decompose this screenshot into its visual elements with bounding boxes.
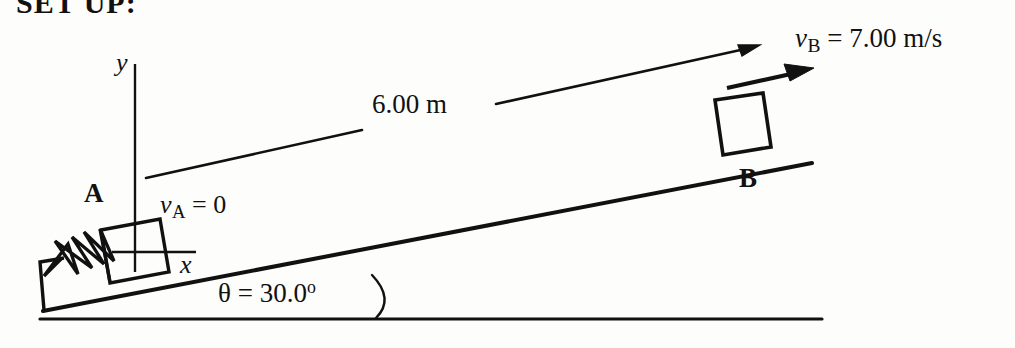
velocity-b-value: 7.00 m/s (849, 23, 942, 53)
angle-equals: = (231, 278, 260, 308)
angle-arc (372, 275, 385, 318)
velocity-a-subscript: A (172, 201, 186, 222)
angle-symbol: θ (218, 278, 231, 308)
velocity-b-label: vB = 7.00 m/s (795, 25, 942, 56)
x-axis-label: x (180, 252, 192, 278)
velocity-a-label: vA = 0 (160, 192, 226, 222)
page-title: SET UP: (16, 0, 137, 18)
distance-arrow-left-segment (146, 130, 362, 178)
velocity-arrow-b-head (784, 64, 814, 81)
block-a-label: A (84, 180, 104, 207)
velocity-b-equals: = (820, 23, 849, 53)
distance-label: 6.00 m (372, 91, 447, 118)
velocity-a-equals: = (186, 190, 214, 219)
incline-surface (43, 163, 812, 311)
angle-label: θ = 30.0o (218, 279, 316, 307)
distance-arrow-right-segment (496, 47, 754, 104)
block-b-label: B (739, 165, 757, 192)
distance-arrow-head (738, 45, 760, 56)
physics-diagram-figure: SET UP: vB = 7.00 m/s 6.00 m B A vA = 0 … (0, 0, 1015, 348)
velocity-a-symbol: v (160, 190, 172, 219)
velocity-b-symbol: v (795, 23, 807, 53)
angle-value: 30.0 (260, 278, 307, 308)
velocity-b-subscript: B (807, 35, 820, 56)
velocity-a-value: 0 (213, 190, 226, 219)
block-b (715, 93, 771, 155)
degree-sign: o (307, 277, 316, 297)
y-axis-label: y (116, 50, 128, 76)
